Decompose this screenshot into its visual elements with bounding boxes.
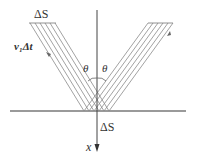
axis-label: x [86,141,91,153]
surface-width-label: ΔS [100,121,114,133]
angle-left-label: θ [83,63,88,74]
angle-arc-right [97,78,106,81]
reflected-arrow-icon [167,31,171,36]
incident-width-label: ΔS [34,8,48,20]
axis-arrow-icon [95,144,100,152]
reflection-diagram [0,0,197,160]
angle-right-label: θ [102,63,107,74]
incident-path-label: v₁Δt [14,41,33,52]
